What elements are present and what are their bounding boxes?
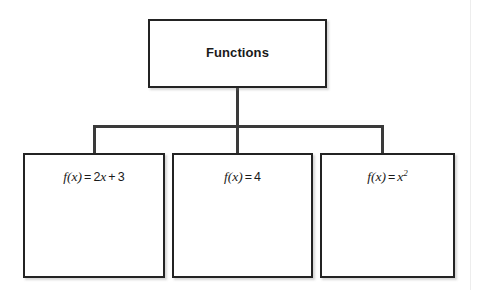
node-child-constant-function: f(x)=4: [172, 153, 313, 278]
node-root-label: Functions: [150, 45, 325, 60]
equals-sign-1: =: [82, 170, 93, 184]
connector-drop-child-2: [236, 125, 239, 154]
connector-drop-child-3: [381, 125, 384, 154]
function-notation-2: f(x): [224, 169, 243, 184]
constant-2: 4: [254, 170, 261, 184]
plus-sign-1: +: [106, 170, 117, 184]
connector-root-stem: [236, 88, 239, 126]
function-notation-3: f(x): [367, 169, 386, 184]
node-child-3-label: f(x)=x2: [322, 169, 453, 185]
node-child-2-label: f(x)=4: [174, 169, 311, 185]
exponent-3: 2: [403, 168, 408, 178]
diagram-canvas: Functions f(x)=2x+3 f(x)=4 f(x)=x2: [0, 0, 477, 290]
constant-1: 3: [118, 170, 125, 184]
function-notation-1: f(x): [63, 169, 82, 184]
node-child-linear-function: f(x)=2x+3: [23, 153, 165, 278]
connector-drop-child-1: [93, 125, 96, 154]
node-child-quadratic-function: f(x)=x2: [320, 153, 455, 278]
equals-sign-2: =: [243, 170, 254, 184]
equals-sign-3: =: [386, 170, 397, 184]
page-edge-line: [470, 0, 471, 290]
node-root-functions: Functions: [148, 19, 327, 88]
node-child-1-label: f(x)=2x+3: [25, 169, 163, 185]
